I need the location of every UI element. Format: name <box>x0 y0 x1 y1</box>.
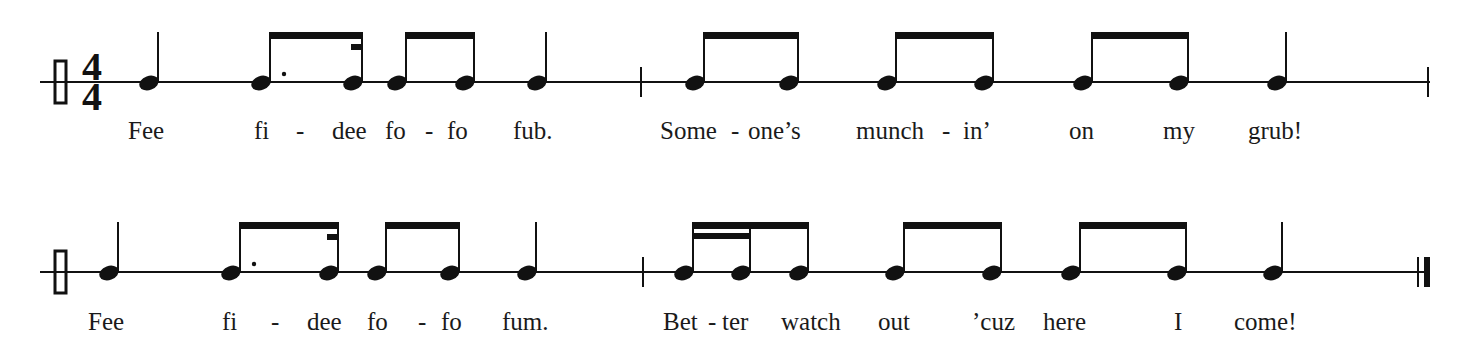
lyric-syllable: one’s <box>748 117 801 144</box>
lyric-syllable: fum. <box>502 308 549 335</box>
beam-secondary-partial <box>327 234 339 240</box>
lyric-syllable: my <box>1163 117 1195 144</box>
lyric-syllable: Bet <box>663 308 698 335</box>
lyric-syllable: fo <box>385 117 406 144</box>
rhythm-score: 44Feefi-deefo-fofub.Some-one’smunch-in’o… <box>0 0 1472 359</box>
beam-secondary <box>692 233 751 239</box>
lyric-hyphen: - <box>708 308 716 335</box>
lyric-syllable: fub. <box>513 117 553 144</box>
lyric-syllable: ’cuz <box>972 308 1015 335</box>
lyric-syllable: dee <box>307 308 342 335</box>
staff-system-1: 44Feefi-deefo-fofub.Some-one’smunch-in’o… <box>40 32 1430 144</box>
lyric-syllable: ter <box>722 308 749 335</box>
lyric-hyphen: - <box>942 117 950 144</box>
beam-primary <box>269 32 363 39</box>
lyric-syllable: come! <box>1234 308 1296 335</box>
beam-primary <box>239 222 339 229</box>
lyric-syllable: fi <box>254 117 269 144</box>
augmentation-dot <box>252 262 256 266</box>
lyric-syllable: Fee <box>128 117 164 144</box>
beam-primary <box>1079 222 1187 229</box>
lyric-syllable: grub! <box>1248 117 1302 144</box>
beam-primary <box>385 222 460 229</box>
lyric-hyphen: - <box>731 117 739 144</box>
lyric-syllable: fo <box>447 117 468 144</box>
lyric-syllable: out <box>878 308 910 335</box>
beam-primary <box>692 222 809 229</box>
lyric-syllable: on <box>1069 117 1095 144</box>
beam-primary <box>703 32 799 39</box>
lyric-hyphen: - <box>296 117 304 144</box>
beam-primary <box>895 32 994 39</box>
lyric-syllable: fo <box>441 308 462 335</box>
beam-primary <box>1091 32 1189 39</box>
lyric-hyphen: - <box>271 308 279 335</box>
lyric-syllable: here <box>1043 308 1086 335</box>
lyric-syllable: fi <box>222 308 237 335</box>
time-signature-bottom: 4 <box>82 74 102 119</box>
staff-system-2: Feefi-deefo-fofum.Bet-terwatchout’cuzher… <box>40 222 1430 335</box>
lyric-syllable: Fee <box>88 308 124 335</box>
beam-primary <box>903 222 1002 229</box>
beam-primary <box>405 32 475 39</box>
lyric-syllable: Some <box>660 117 717 144</box>
lyric-hyphen: - <box>418 308 426 335</box>
lyric-syllable: fo <box>367 308 388 335</box>
lyric-syllable: munch <box>856 117 925 144</box>
lyric-syllable: watch <box>781 308 841 335</box>
beam-secondary-partial <box>351 44 363 50</box>
lyric-hyphen: - <box>425 117 433 144</box>
lyric-syllable: I <box>1174 308 1182 335</box>
augmentation-dot <box>282 72 286 76</box>
lyric-syllable: dee <box>332 117 367 144</box>
final-barline-thick <box>1424 257 1430 287</box>
lyric-syllable: in’ <box>963 117 991 144</box>
